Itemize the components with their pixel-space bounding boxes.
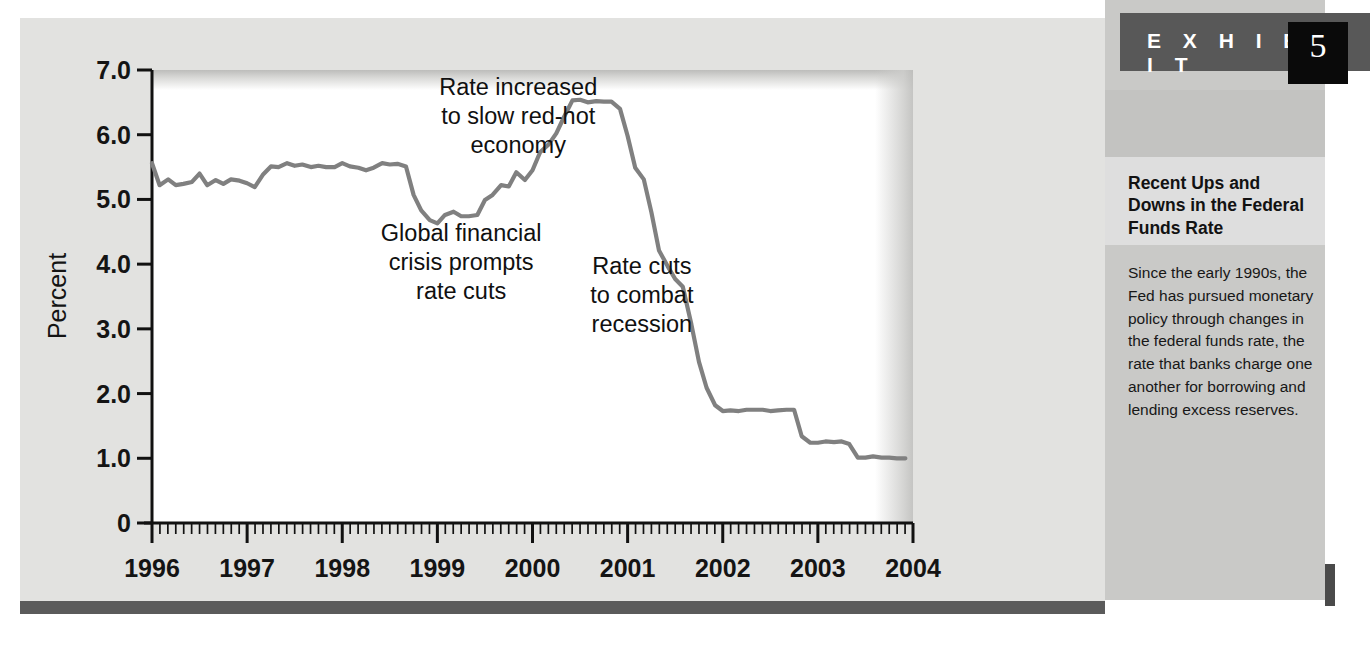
y-tick-label: 3.0 [96, 315, 131, 343]
chart-panel: 01.02.03.04.05.06.07.0 19961997199819992… [20, 18, 1105, 601]
x-tick-label: 2002 [695, 554, 751, 582]
sidebar-band-second [1105, 90, 1325, 157]
x-tick-label: 2000 [505, 554, 561, 582]
y-tick-label: 7.0 [96, 56, 131, 84]
line-chart: 01.02.03.04.05.06.07.0 19961997199819992… [20, 18, 1105, 601]
y-tick-label: 6.0 [96, 121, 131, 149]
x-axis-ticks [152, 523, 913, 543]
y-axis-ticks [137, 70, 152, 523]
x-tick-label: 1998 [314, 554, 370, 582]
y-tick-label: 1.0 [96, 444, 131, 472]
y-tick-label: 2.0 [96, 380, 131, 408]
chart-annotation: Rate increasedto slow red-hoteconomy [439, 74, 597, 158]
y-tick-label: 5.0 [96, 185, 131, 213]
x-tick-label: 2004 [885, 554, 941, 582]
chart-annotation: Rate cutsto combatrecession [590, 253, 694, 337]
exhibit-number: 5 [1288, 27, 1348, 65]
y-tick-label: 0 [117, 509, 131, 537]
y-tick-label: 4.0 [96, 250, 131, 278]
exhibit-description: Since the early 1990s, the Fed has pursu… [1128, 262, 1314, 421]
y-axis-labels: 01.02.03.04.05.06.07.0 [96, 56, 131, 537]
exhibit-title: Recent Ups and Downs in the Federal Fund… [1128, 172, 1308, 239]
x-tick-label: 1997 [219, 554, 275, 582]
x-axis-labels: 199619971998199920002001200220032004 [124, 554, 941, 582]
chart-annotations: Rate increasedto slow red-hoteconomyGlob… [381, 74, 694, 337]
x-tick-label: 1999 [410, 554, 466, 582]
exhibit-sidebar: E X H I B I T 5 Recent Ups and Downs in … [1105, 0, 1325, 600]
x-tick-label: 2003 [790, 554, 846, 582]
y-axis-title: Percent [43, 253, 71, 339]
chart-panel-bottom-bar [20, 601, 1105, 614]
x-tick-label: 2001 [600, 554, 656, 582]
chart-annotation: Global financialcrisis promptsrate cuts [381, 220, 542, 304]
x-tick-label: 1996 [124, 554, 180, 582]
sidebar-right-mark [1325, 564, 1335, 606]
